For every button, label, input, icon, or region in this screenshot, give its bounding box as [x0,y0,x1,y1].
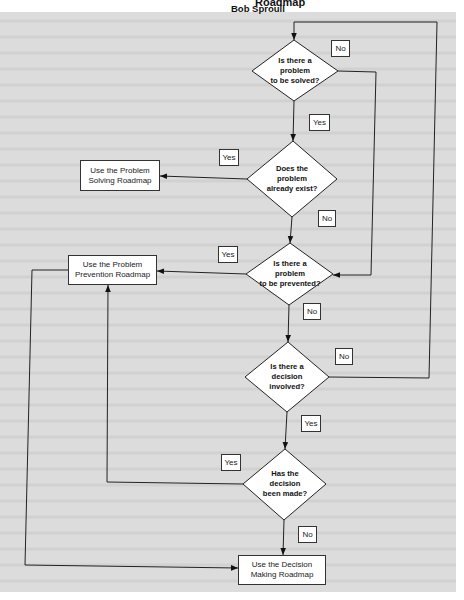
edge-label-d5-yes: Yes [221,454,241,471]
edge-label-d1-yes: Yes [309,114,330,131]
flowchart-connectors [0,0,464,600]
decision-text-decision-involved: Is there a decision involved? [247,362,327,392]
edge-label-d3-no: No [303,303,321,320]
decision-text-problem-to-be-solved: Is there a problem to be solved? [254,56,336,86]
outcome-problem-solving-roadmap: Use the Problem Solving Roadmap [80,160,160,191]
outcome-decision-making-roadmap: Use the Decision Making Roadmap [238,555,326,585]
edge-label-d4-no: No [335,348,353,365]
decision-text-decision-made: Has the decision been made? [245,469,325,499]
edge-label-d2-yes: Yes [219,149,239,166]
edge-label-d1-no: No [331,40,350,57]
edge-label-d3-yes: Yes [218,246,238,263]
outcome-problem-prevention-roadmap: Use the Problem Prevention Roadmap [68,255,157,285]
edge-label-d5-no: No [298,526,317,543]
edge-label-d2-no: No [318,210,336,227]
decision-text-problem-already-exist: Does the problem already exist? [249,164,335,194]
decision-text-problem-to-be-prevented: Is there a problem to be prevented? [246,259,334,289]
edge-label-d4-yes: Yes [301,415,321,432]
